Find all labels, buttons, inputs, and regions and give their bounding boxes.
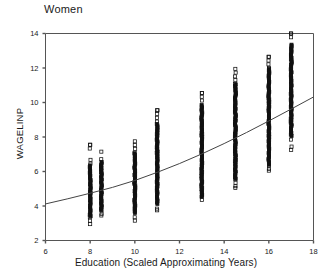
chart-figure: Women WAGELINP Education (Scaled Approxi… [0, 0, 332, 279]
svg-text:8: 8 [88, 247, 92, 256]
axis-ticks [43, 34, 314, 244]
svg-text:12: 12 [175, 247, 183, 256]
axis-tick-labels: 6810121416182468101214 [30, 29, 318, 255]
svg-text:12: 12 [30, 64, 38, 73]
svg-text:6: 6 [43, 247, 47, 256]
svg-text:10: 10 [30, 98, 38, 107]
plot-frame [46, 34, 314, 241]
svg-text:2: 2 [34, 236, 38, 245]
svg-text:8: 8 [34, 133, 38, 142]
svg-text:14: 14 [30, 29, 38, 38]
plot-area: 6810121416182468101214 [0, 0, 332, 279]
svg-text:14: 14 [220, 247, 228, 256]
svg-text:10: 10 [131, 247, 139, 256]
data-point-markers [88, 32, 293, 226]
svg-text:6: 6 [34, 167, 38, 176]
svg-text:16: 16 [265, 247, 273, 256]
fitted-curve [46, 97, 314, 204]
svg-text:18: 18 [309, 247, 317, 256]
svg-text:4: 4 [34, 202, 38, 211]
